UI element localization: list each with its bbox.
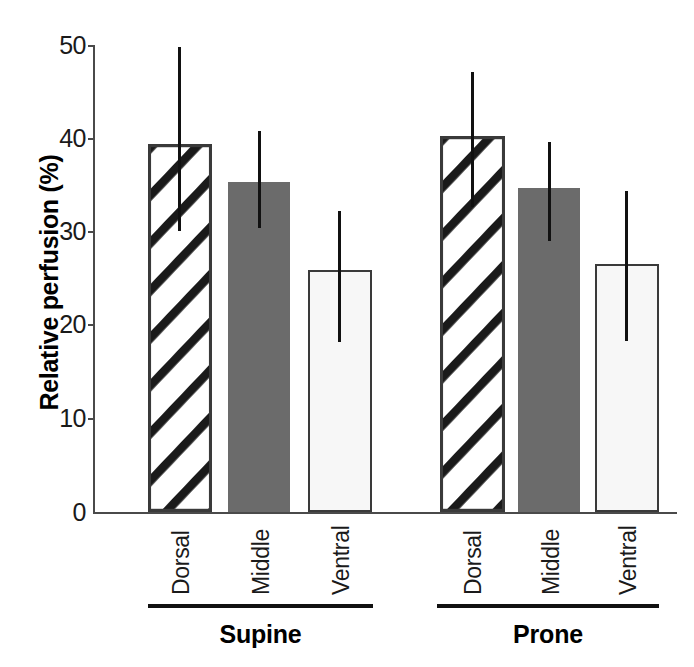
bar-chart-figure: 50 40 30 20 10 0 Relative perfusion (%) (0, 0, 694, 667)
category-label-prone-middle: Middle (540, 529, 563, 595)
error-bar-prone-ventral (625, 191, 628, 341)
group-name-supine: Supine (148, 620, 373, 649)
error-bar-prone-dorsal (471, 72, 474, 207)
category-label-prone-dorsal: Dorsal (462, 530, 485, 595)
group-rule-supine (148, 604, 373, 608)
category-label-supine-ventral: Ventral (330, 525, 353, 595)
error-bar-supine-middle (258, 131, 261, 228)
bar-supine-middle (228, 182, 290, 512)
category-label-supine-middle: Middle (250, 529, 273, 595)
group-rule-prone (437, 604, 659, 608)
group-name-prone: Prone (437, 620, 659, 649)
category-label-supine-dorsal: Dorsal (170, 530, 193, 595)
error-bar-prone-middle (548, 142, 551, 241)
error-bar-supine-dorsal (178, 47, 181, 231)
error-bar-supine-ventral (338, 211, 341, 342)
category-label-prone-ventral: Ventral (617, 525, 640, 595)
